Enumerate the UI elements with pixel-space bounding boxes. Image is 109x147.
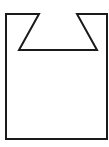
- notched-rectangle-diagram: [0, 0, 109, 147]
- notched-rectangle-outline: [6, 14, 107, 139]
